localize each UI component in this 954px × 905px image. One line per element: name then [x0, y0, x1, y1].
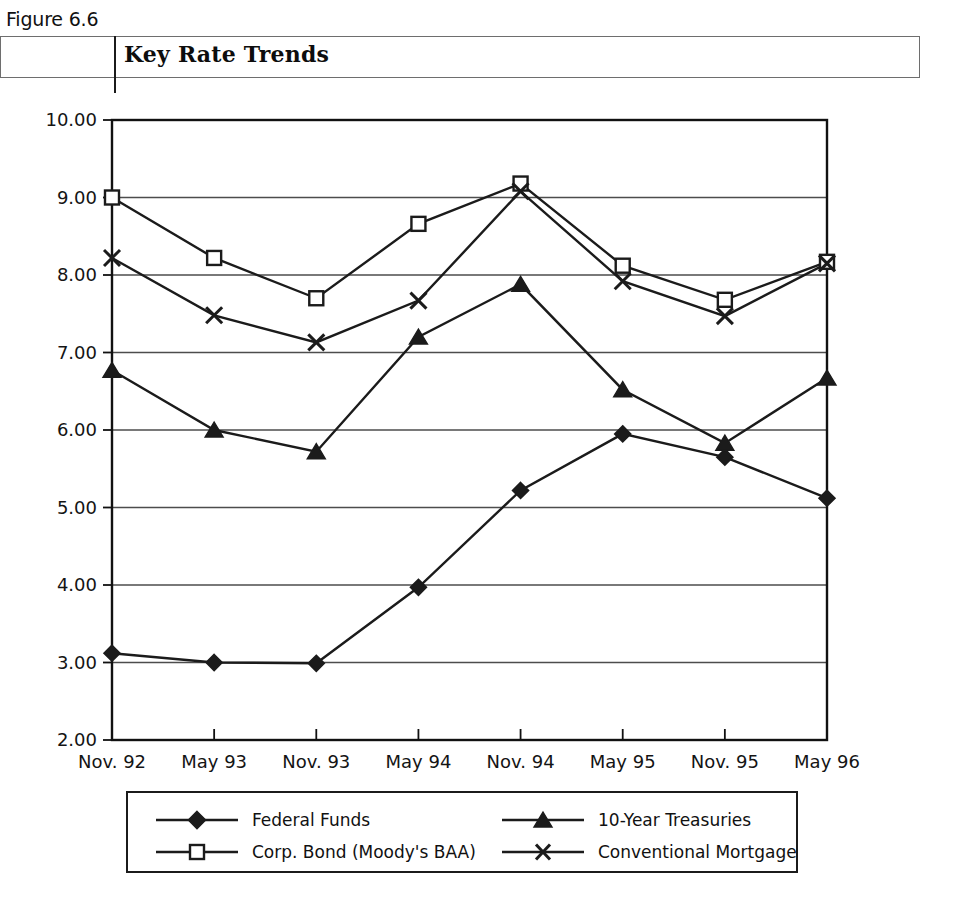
y-axis-tick-label: 5.00 — [57, 497, 97, 518]
x-axis-tick-label: May 95 — [590, 751, 656, 772]
x-axis-tick-label: Nov. 93 — [282, 751, 350, 772]
y-axis-tick-label: 4.00 — [57, 574, 97, 595]
chart-background — [0, 100, 954, 800]
figure-title: Key Rate Trends — [124, 41, 329, 67]
legend-label-conventional-mortgage: Conventional Mortgage — [598, 842, 797, 862]
legend-label-federal-funds: Federal Funds — [252, 810, 370, 830]
y-axis-tick-label: 2.00 — [57, 729, 97, 750]
legend-item-corp-bond: Corp. Bond (Moody's BAA) — [154, 839, 476, 865]
legend-item-10-year-treasuries: 10-Year Treasuries — [500, 807, 751, 833]
open-square-marker — [207, 251, 221, 265]
x-axis-tick-label: Nov. 95 — [691, 751, 759, 772]
open-square-marker — [309, 291, 323, 305]
open-square-marker — [411, 217, 425, 231]
open-square-icon — [154, 840, 240, 864]
y-axis-tick-label: 7.00 — [57, 342, 97, 363]
legend-label-10-year-treasuries: 10-Year Treasuries — [598, 810, 751, 830]
x-axis-tick-label: Nov. 94 — [487, 751, 555, 772]
filled-triangle-icon — [500, 808, 586, 832]
y-axis-tick-label: 8.00 — [57, 264, 97, 285]
x-axis-tick-label: May 93 — [181, 751, 247, 772]
x-cross-icon — [500, 840, 586, 864]
chart-legend: Federal Funds 10-Year Treasuries Corp. B… — [126, 791, 798, 873]
line-chart: 2.003.004.005.006.007.008.009.0010.00 No… — [0, 100, 954, 800]
x-axis-tick-label: May 96 — [794, 751, 860, 772]
open-square-marker — [718, 293, 732, 307]
open-square-marker — [616, 259, 630, 273]
figure-number: Figure 6.6 — [6, 8, 98, 30]
legend-item-conventional-mortgage: Conventional Mortgage — [500, 839, 797, 865]
y-axis-tick-label: 9.00 — [57, 187, 97, 208]
legend-item-federal-funds: Federal Funds — [154, 807, 370, 833]
filled-diamond-icon — [154, 808, 240, 832]
chart-container: 2.003.004.005.006.007.008.009.0010.00 No… — [0, 100, 954, 800]
legend-label-corp-bond: Corp. Bond (Moody's BAA) — [252, 842, 476, 862]
figure-header-divider — [114, 36, 116, 93]
x-axis-tick-label: Nov. 92 — [78, 751, 146, 772]
y-axis-tick-label: 10.00 — [45, 109, 97, 130]
y-axis-tick-label: 3.00 — [57, 652, 97, 673]
y-axis-tick-label: 6.00 — [57, 419, 97, 440]
x-axis-tick-label: May 94 — [386, 751, 452, 772]
open-square-marker — [105, 191, 119, 205]
